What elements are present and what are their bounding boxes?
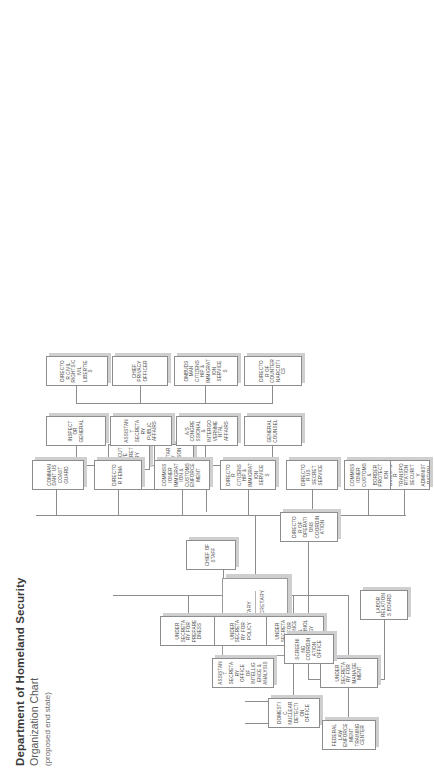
node-domestic-nuclear-detection-label: DOMESTIC NUCLEAR DETECTION OFFICE — [277, 701, 311, 725]
connector-staff-b-ombudsman — [205, 386, 206, 404]
connector-undersec-prep — [188, 596, 189, 616]
connector-staff-b-vertical — [76, 403, 272, 404]
node-chief-privacy-officer-label: CHIEF PRIVACY OFFICER — [132, 359, 149, 383]
node-us-preparedness[interactable]: UNDER SECRETARY FOR PREPAREDNESS — [160, 616, 218, 646]
connector-undersec-st — [293, 596, 294, 616]
page-subtitle: Organization Chart — [28, 466, 41, 766]
node-fletc-label: FEDERAL LAW ENFORCEMENT TRAINING CENTER — [332, 723, 366, 747]
connector-component-cis — [248, 490, 249, 516]
chart-title-block: Department of Homeland Security Organiza… — [14, 466, 53, 766]
node-counter-narcotics[interactable]: DIRECTOR OF COUNTER NARCOTICS — [244, 356, 302, 386]
node-ombudsman-cis[interactable]: OMBUDSMAN CITIZENSHIP & IMMIGRATION SERV… — [174, 356, 238, 386]
node-labor-relations-board[interactable]: LABOR RELATIONS BOARD — [360, 590, 408, 620]
node-domestic-nuclear-detection[interactable]: DOMESTIC NUCLEAR DETECTION OFFICE — [268, 698, 320, 728]
node-fema-label: DIRECTOR FEMA — [112, 463, 123, 487]
node-chief-of-staff[interactable]: CHIEF OF STAFF — [186, 540, 236, 570]
node-screening-coordination-label: SCREENING COORDINATION OFFICE — [295, 637, 323, 661]
node-us-preparedness-label: UNDER SECRETARY FOR PREPAREDNESS — [175, 619, 203, 643]
node-secret-service-label: DIRECTOR US SECRET SERVICE — [301, 463, 323, 487]
page-title-note: (proposed end state) — [42, 466, 53, 766]
connector-components-vertical — [36, 515, 404, 516]
node-general-counsel[interactable]: GENERAL COUNSEL — [244, 416, 302, 446]
node-inspector-general-label: INSPECTOR GENERAL — [68, 419, 85, 443]
connector-labor-relations — [384, 620, 385, 680]
connector-undersec-mgmt — [348, 596, 349, 658]
node-chief-privacy-officer[interactable]: CHIEF PRIVACY OFFICER — [112, 356, 168, 386]
node-asst-sec-intelligence[interactable]: ASSISTANT SECRETARY OFFICE OF INTELLIGEN… — [212, 658, 274, 688]
page-rotation-wrapper: Department of Homeland Security Organiza… — [0, 0, 434, 784]
node-fema[interactable]: DIRECTOR FEMA — [94, 460, 142, 490]
node-asst-sec-intelligence-label: ASSISTANT SECRETARY OFFICE OF INTELLIGEN… — [218, 661, 268, 685]
connector-staff-b-narcotics — [272, 386, 273, 404]
node-cis[interactable]: DIRECTOR CITIZENSHIP & IMMIGRATION SERVI… — [220, 460, 276, 490]
node-dir-ops-coordination-label: DIRECTOR OF OPERATIONS COORDINATION — [292, 515, 326, 539]
connector-staff-b-privacy — [140, 386, 141, 404]
org-chart-canvas: Department of Homeland Security Organiza… — [0, 0, 434, 784]
page-title: Department of Homeland Security — [14, 466, 27, 766]
node-asst-sec-public-affairs[interactable]: ASSISTANT SECRETARY PUBLIC AFFAIRS — [110, 416, 172, 446]
connector-cos-to-children — [206, 490, 207, 512]
node-tsa[interactable]: DIRECTOR TRANSPORTATION SECURITY ADMINIS… — [390, 460, 430, 490]
node-ice-label: COMMISSIONER IMMIGRATION & CUSTOMS ENFOR… — [162, 463, 201, 487]
node-civil-rights-liberties[interactable]: DIRECTOR CIVIL RIGHTS/CIVIL LIBERTIES — [46, 356, 108, 386]
node-fletc[interactable]: FEDERAL LAW ENFORCEMENT TRAINING CENTER — [322, 720, 376, 750]
connector-component-tsa — [404, 490, 405, 516]
node-secret-service[interactable]: DIRECTOR US SECRET SERVICE — [286, 460, 338, 490]
node-us-management-label: UNDER SECRETARY FOR MANAGEMENT — [335, 661, 363, 685]
node-dir-ops-coordination[interactable]: DIRECTOR OF OPERATIONS COORDINATION — [280, 512, 338, 542]
node-inspector-general[interactable]: INSPECTOR GENERAL — [46, 416, 106, 446]
node-ice[interactable]: COMMISSIONER IMMIGRATION & CUSTOMS ENFOR… — [154, 460, 210, 490]
node-general-counsel-label: GENERAL COUNSEL — [267, 419, 278, 443]
node-cbp-label: COMMISSIONER CUSTOMS & BORDER PROTECTION — [350, 463, 389, 487]
connector-component-ice — [182, 490, 183, 516]
connector-component-cbp — [368, 490, 369, 516]
node-as-congressional-affairs[interactable]: A/S CONGRESSIONAL & INTERGOVERNMENTAL AF… — [176, 416, 238, 446]
node-civil-rights-liberties-label: DIRECTOR CIVIL RIGHTS/CIVIL LIBERTIES — [60, 359, 94, 383]
node-cis-label: DIRECTOR CITIZENSHIP & IMMIGRATION SERVI… — [226, 463, 271, 487]
node-screening-coordination[interactable]: SCREENING COORDINATION OFFICE — [284, 634, 334, 664]
node-ombudsman-cis-label: OMBUDSMAN CITIZENSHIP & IMMIGRATION SERV… — [184, 359, 229, 383]
node-as-congressional-affairs-label: A/S CONGRESSIONAL & INTERGOVERNMENTAL AF… — [185, 419, 230, 443]
node-coast-guard[interactable]: COMMANDANT US COAST GUARD — [32, 460, 84, 490]
node-counter-narcotics-label: DIRECTOR OF COUNTER NARCOTICS — [259, 359, 287, 383]
node-cbp[interactable]: COMMISSIONER CUSTOMS & BORDER PROTECTION — [344, 460, 396, 490]
node-coast-guard-label: COMMANDANT US COAST GUARD — [47, 463, 69, 487]
node-us-policy[interactable]: UNDER SECRETARY FOR POLICY — [214, 616, 268, 646]
connector-staff-b-crcl — [76, 386, 77, 404]
connector-component-cg — [56, 490, 57, 516]
node-chief-of-staff-label: CHIEF OF STAFF — [205, 543, 216, 567]
node-asst-sec-public-affairs-label: ASSISTANT SECRETARY PUBLIC AFFAIRS — [124, 419, 158, 443]
connector-component-fema — [118, 490, 119, 516]
node-us-policy-label: UNDER SECRETARY FOR POLICY — [230, 619, 252, 643]
connector-secretary-spine — [255, 516, 256, 578]
node-tsa-label: DIRECTOR TRANSPORTATION SECURITY ADMINIS… — [390, 463, 430, 487]
connector-components-lower — [404, 515, 406, 516]
node-labor-relations-board-label: LABOR RELATIONS BOARD — [376, 593, 393, 617]
